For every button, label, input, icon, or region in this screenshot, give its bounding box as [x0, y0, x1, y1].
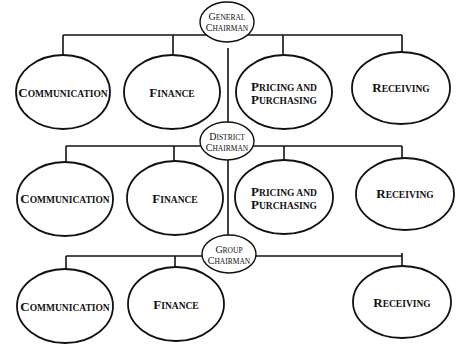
- l2-receiving-node: RECEIVING: [356, 158, 454, 230]
- l3-communication-node: COMMUNICATION: [17, 269, 113, 343]
- district-line1-rest: ISTRICT: [216, 133, 245, 142]
- l1-finance-node: FINANCE: [124, 55, 220, 129]
- l2-communication-node: COMMUNICATION: [17, 162, 113, 236]
- district-line2-rest: HAIRMAN: [212, 144, 248, 153]
- group-line1-rest: ROUP: [223, 246, 243, 255]
- svg-text:GROUP: GROUP: [215, 244, 242, 255]
- svg-text:DISTRICT: DISTRICT: [209, 131, 245, 142]
- svg-text:CHAIRMAN: CHAIRMAN: [206, 22, 249, 33]
- l1-pricing-purchasing-node: PRICING AND PURCHASING: [236, 55, 332, 129]
- general-chairman-node: GENERAL CHAIRMAN: [200, 2, 254, 42]
- group-line2-rest: HAIRMAN: [214, 257, 250, 266]
- district-line1-cap: D: [209, 131, 216, 142]
- svg-text:CHAIRMAN: CHAIRMAN: [208, 255, 251, 266]
- svg-text:CHAIRMAN: CHAIRMAN: [206, 142, 249, 153]
- l1-receiving-node: RECEIVING: [352, 52, 450, 124]
- l1-communication-node: COMMUNICATION: [16, 55, 110, 129]
- group-chairman-node: GROUP CHAIRMAN: [202, 235, 256, 273]
- general-line2-rest: HAIRMAN: [212, 24, 248, 33]
- svg-text:GENERAL: GENERAL: [209, 11, 246, 22]
- district-chairman-node: DISTRICT CHAIRMAN: [200, 122, 254, 160]
- l2-pricing-purchasing-node: PRICING AND PURCHASING: [235, 160, 333, 234]
- general-line1-cap: G: [209, 11, 216, 22]
- general-line1-rest: ENERAL: [216, 13, 246, 22]
- l2-finance-node: FINANCE: [127, 161, 223, 235]
- group-line1-cap: G: [215, 244, 222, 255]
- org-chart: GENERAL CHAIRMAN COMMUNICATION FINANCE P…: [0, 0, 468, 360]
- l3-finance-node: FINANCE: [128, 267, 224, 341]
- l3-receiving-node: RECEIVING: [353, 266, 451, 338]
